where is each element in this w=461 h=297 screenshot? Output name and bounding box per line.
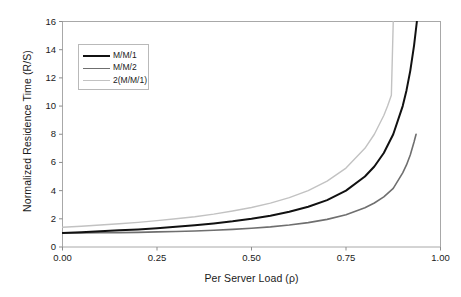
- y-tick-label: 10: [34, 101, 56, 111]
- y-tick-label: 0: [34, 242, 56, 252]
- legend-item-label: M/M/2: [110, 63, 137, 72]
- x-tick-label: 1.00: [420, 252, 461, 263]
- series-line: [63, 134, 417, 233]
- y-tick-label: 2: [34, 214, 56, 224]
- y-tick-label: 14: [34, 45, 56, 55]
- y-axis-ticks: [59, 22, 63, 248]
- x-axis-ticks: [63, 247, 441, 251]
- y-tick-label: 16: [34, 17, 56, 27]
- x-tick-label: 0.50: [231, 252, 273, 263]
- y-tick-label: 8: [34, 129, 56, 139]
- x-axis-title: Per Server Load (ρ): [62, 272, 441, 284]
- y-axis-title: Normalized Residence Time (R/S): [21, 11, 33, 251]
- x-tick-label: 0.25: [136, 252, 178, 263]
- chart-figure: 0246810121416 0.000.250.500.751.00 Norma…: [0, 0, 461, 297]
- x-axis-tick-labels: 0.000.250.500.751.00: [0, 252, 461, 268]
- legend-item: 2(M/M/1): [83, 74, 144, 87]
- y-tick-label: 4: [34, 186, 56, 196]
- x-tick-label: 0.00: [42, 252, 84, 263]
- legend-item-label: M/M/1: [110, 51, 137, 60]
- chart-legend: M/M/1 M/M/2 2(M/M/1): [78, 44, 149, 90]
- legend-line-icon: [83, 75, 110, 85]
- legend-item: M/M/1: [83, 49, 144, 62]
- legend-item: M/M/2: [83, 62, 144, 75]
- y-tick-label: 6: [34, 157, 56, 167]
- legend-line-icon: [83, 63, 110, 73]
- legend-item-label: 2(M/M/1): [110, 76, 147, 85]
- legend-line-icon: [83, 50, 110, 60]
- x-tick-label: 0.75: [325, 252, 367, 263]
- y-tick-label: 12: [34, 73, 56, 83]
